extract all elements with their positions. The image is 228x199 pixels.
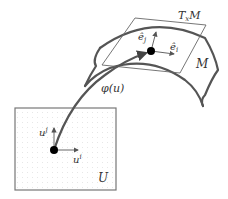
manifold-label: M [195,57,209,71]
basis-i-label: êi [170,41,178,54]
domain-label: U [98,171,109,185]
map-label: φ(u) [101,82,124,95]
domain-point [50,146,58,154]
svg-text:TxM: TxM [178,9,201,23]
tangent-space-manifold: M [188,9,201,22]
basis-i-subscript: i [176,46,178,54]
manifold-point [147,47,155,55]
tangent-space-label: TxM [178,9,201,23]
coord-i-superscript: i [79,153,81,161]
manifold-diagram: U TxM M φ(u) êi êj ui uj [0,0,228,199]
basis-j-label: êj [138,31,147,44]
